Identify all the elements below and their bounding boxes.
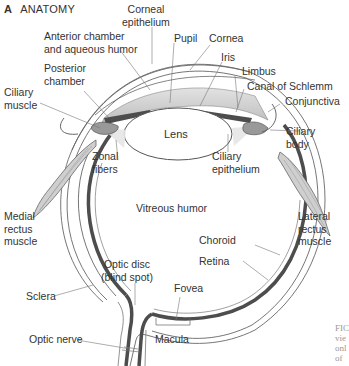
panel-letter: A (4, 3, 12, 15)
panel-title: AANATOMY (4, 3, 75, 15)
label-canal-of-schlemm: Canal of Schlemm (247, 80, 333, 93)
label-zonal-fibers: Zonal fibers (92, 150, 118, 175)
label-vitreous-humor: Vitreous humor (136, 202, 207, 215)
figure-caption-fragment: FICvieonlof (335, 323, 349, 363)
label-fovea: Fovea (174, 282, 203, 295)
label-pupil: Pupil (174, 32, 197, 45)
label-lens: Lens (164, 128, 188, 141)
label-choroid: Choroid (199, 234, 236, 247)
label-lateral-rectus-muscle: Lateral rectus muscle (298, 210, 331, 248)
label-ciliary-epithelium: Ciliary epithelium (212, 150, 260, 175)
label-limbus: Limbus (242, 65, 276, 78)
label-corneal-epithelium: Corneal epithelium (122, 3, 170, 28)
optic-nerve-shape (118, 295, 152, 366)
label-cornea: Cornea (209, 32, 243, 45)
label-optic-nerve: Optic nerve (29, 333, 83, 346)
label-anterior-chamber: Anterior chamber and aqueous humor (44, 30, 137, 55)
label-retina: Retina (199, 255, 229, 268)
label-optic-disc: Optic disc (blind spot) (101, 258, 153, 283)
label-conjunctiva: Conjunctiva (285, 95, 340, 108)
label-ciliary-muscle: Ciliary muscle (4, 86, 37, 111)
label-macula: Macula (155, 333, 189, 346)
label-ciliary-body: Ciliary body (286, 125, 315, 150)
label-medial-rectus-muscle: Medial rectus muscle (4, 210, 37, 248)
label-posterior-chamber: Posterior chamber (44, 62, 86, 87)
panel-title-text: ANATOMY (20, 3, 75, 15)
label-iris: Iris (221, 51, 235, 64)
label-sclera: Sclera (26, 290, 56, 303)
